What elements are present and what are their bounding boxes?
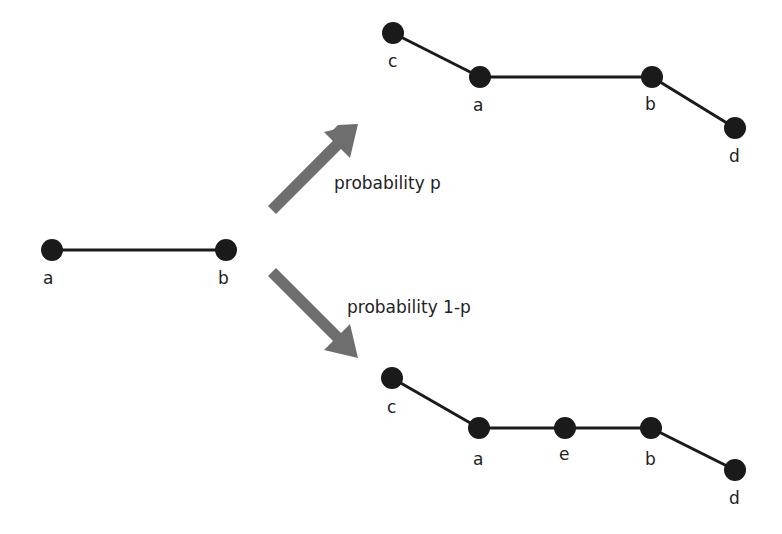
probability-p-label: probability p	[334, 175, 441, 192]
node-c	[382, 22, 404, 44]
original-graph	[41, 239, 237, 261]
node-b	[641, 66, 663, 88]
edge-c-a	[393, 33, 480, 77]
label-b: b	[218, 270, 229, 287]
edge-b-d	[652, 77, 735, 128]
node-e	[554, 417, 576, 439]
label-b: b	[645, 96, 656, 113]
label-e: e	[559, 446, 569, 463]
arrow-down-icon	[268, 268, 358, 358]
arrow-up-shape	[268, 124, 358, 214]
label-d: d	[729, 148, 740, 165]
label-a: a	[43, 270, 53, 287]
node-b	[640, 417, 662, 439]
label-a: a	[473, 97, 483, 114]
edge-c-a	[392, 378, 479, 428]
label-a: a	[473, 451, 483, 468]
diagram-graphics	[0, 0, 782, 534]
label-c: c	[387, 399, 396, 416]
node-b	[215, 239, 237, 261]
node-d	[724, 117, 746, 139]
top-graph	[382, 22, 746, 139]
diagram-canvas: a b probability p probability 1-p c a b …	[0, 0, 782, 534]
edge-b-d	[651, 428, 735, 470]
node-a	[41, 239, 63, 261]
label-c: c	[388, 53, 397, 70]
node-c	[381, 367, 403, 389]
probability-1-p-label: probability 1-p	[347, 299, 471, 316]
label-b: b	[645, 451, 656, 468]
node-a	[468, 417, 490, 439]
label-d: d	[729, 490, 740, 507]
node-a	[469, 66, 491, 88]
node-d	[724, 459, 746, 481]
